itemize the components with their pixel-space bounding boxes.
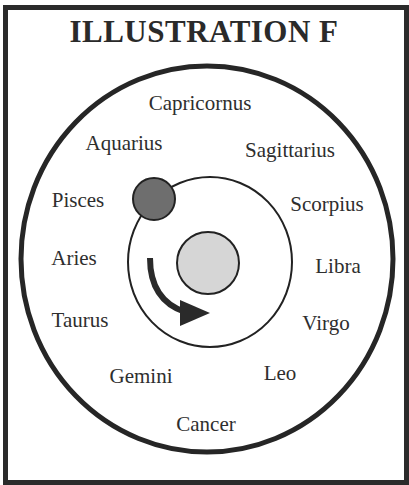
constellation-label-gemini: Gemini	[110, 364, 173, 389]
constellation-label-capricornus: Capricornus	[149, 91, 252, 116]
sun	[177, 232, 239, 294]
constellation-label-scorpius: Scorpius	[290, 192, 364, 217]
constellation-label-leo: Leo	[264, 361, 297, 386]
constellation-label-cancer: Cancer	[176, 412, 235, 437]
constellation-label-virgo: Virgo	[302, 311, 349, 336]
constellation-label-aries: Aries	[51, 246, 97, 271]
constellation-label-libra: Libra	[315, 254, 360, 279]
constellation-label-aquarius: Aquarius	[86, 131, 163, 156]
constellation-label-sagittarius: Sagittarius	[245, 138, 335, 163]
constellation-label-pisces: Pisces	[52, 188, 105, 213]
direction-arrow-head-icon	[180, 300, 210, 326]
moon-planet	[133, 178, 175, 220]
constellation-label-taurus: Taurus	[52, 308, 109, 333]
